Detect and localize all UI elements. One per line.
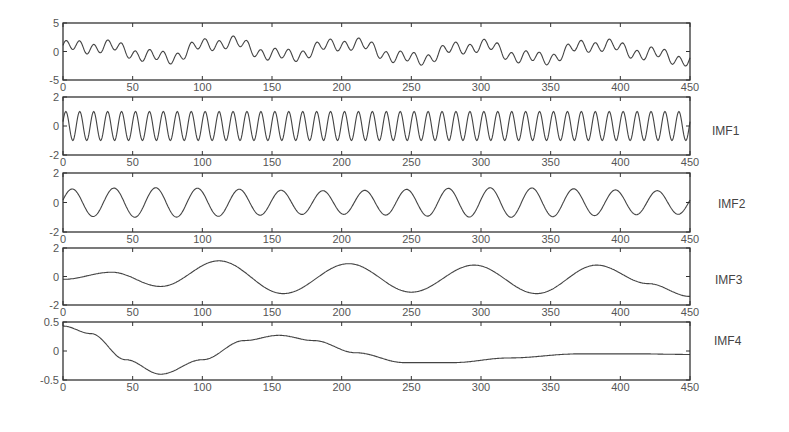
- x-tick-label: 400: [611, 156, 629, 168]
- data-line: [63, 188, 690, 217]
- data-line: [63, 112, 690, 141]
- x-tick-label: 150: [263, 156, 281, 168]
- y-tick-label: -2: [49, 226, 59, 238]
- x-tick-label: 150: [263, 233, 281, 245]
- x-tick-label: 200: [332, 381, 350, 393]
- x-tick-label: 350: [541, 156, 559, 168]
- y-tick-label: 0: [53, 197, 59, 209]
- y-tick-label: -5: [49, 74, 59, 86]
- imf-label-imf1: IMF1: [712, 124, 739, 138]
- x-tick-label: 400: [611, 306, 629, 318]
- y-tick-label: -2: [49, 149, 59, 161]
- x-tick-label: 50: [127, 156, 139, 168]
- x-tick-label: 450: [681, 381, 699, 393]
- data-line: [63, 326, 690, 374]
- x-tick-label: 450: [681, 233, 699, 245]
- data-line: [63, 36, 690, 66]
- x-tick-label: 400: [611, 381, 629, 393]
- axes-box: [63, 97, 690, 155]
- imf-label-imf4: IMF4: [714, 334, 741, 348]
- y-tick-label: -2: [49, 299, 59, 311]
- x-tick-label: 50: [127, 306, 139, 318]
- x-tick-label: 150: [263, 306, 281, 318]
- y-tick-label: 2: [53, 242, 59, 254]
- x-tick-label: 450: [681, 306, 699, 318]
- axes-box: [63, 322, 690, 380]
- x-tick-label: 50: [127, 381, 139, 393]
- x-tick-label: 100: [193, 306, 211, 318]
- x-tick-label: 100: [193, 81, 211, 93]
- y-tick-label: 0: [53, 345, 59, 357]
- subplot-imf4: 0501001502002503003504004500.50-0.5: [40, 316, 699, 393]
- x-tick-label: 250: [402, 81, 420, 93]
- y-tick-label: 5: [53, 17, 59, 29]
- x-tick-label: 0: [60, 306, 66, 318]
- imf-label-imf3: IMF3: [715, 273, 742, 287]
- x-tick-label: 100: [193, 156, 211, 168]
- y-tick-label: -0.5: [40, 374, 59, 386]
- x-tick-label: 350: [541, 81, 559, 93]
- x-tick-label: 300: [472, 381, 490, 393]
- x-tick-label: 300: [472, 306, 490, 318]
- x-tick-label: 250: [402, 381, 420, 393]
- x-tick-label: 0: [60, 233, 66, 245]
- y-tick-label: 0: [53, 46, 59, 58]
- y-tick-label: 0: [53, 271, 59, 283]
- subplot-signal: 05010015020025030035040045050-5: [49, 17, 699, 93]
- emd-figure: 05010015020025030035040045050-5050100150…: [0, 0, 789, 432]
- x-tick-label: 50: [127, 81, 139, 93]
- x-tick-label: 350: [541, 233, 559, 245]
- x-tick-label: 200: [332, 156, 350, 168]
- x-tick-label: 200: [332, 81, 350, 93]
- x-tick-label: 150: [263, 381, 281, 393]
- axes-box: [63, 173, 690, 232]
- x-tick-label: 0: [60, 381, 66, 393]
- x-tick-label: 0: [60, 81, 66, 93]
- x-tick-label: 400: [611, 233, 629, 245]
- x-tick-label: 300: [472, 156, 490, 168]
- y-tick-label: 2: [53, 167, 59, 179]
- data-line: [63, 261, 690, 297]
- x-tick-label: 100: [193, 381, 211, 393]
- subplot-imf2: 05010015020025030035040045020-2: [49, 167, 699, 245]
- x-tick-label: 450: [681, 81, 699, 93]
- y-tick-label: 0.5: [44, 316, 59, 328]
- x-tick-label: 300: [472, 233, 490, 245]
- x-tick-label: 200: [332, 306, 350, 318]
- y-tick-label: 0: [53, 120, 59, 132]
- imf-label-imf2: IMF2: [718, 197, 745, 211]
- x-tick-label: 350: [541, 306, 559, 318]
- x-tick-label: 150: [263, 81, 281, 93]
- x-tick-label: 50: [127, 233, 139, 245]
- subplot-imf3: 05010015020025030035040045020-2: [49, 242, 699, 318]
- x-tick-label: 300: [472, 81, 490, 93]
- x-tick-label: 450: [681, 156, 699, 168]
- axes-box: [63, 248, 690, 305]
- x-tick-label: 0: [60, 156, 66, 168]
- x-tick-label: 250: [402, 306, 420, 318]
- x-tick-label: 100: [193, 233, 211, 245]
- x-tick-label: 200: [332, 233, 350, 245]
- x-tick-label: 400: [611, 81, 629, 93]
- x-tick-label: 350: [541, 381, 559, 393]
- subplot-imf1: 05010015020025030035040045020-2: [49, 91, 699, 168]
- x-tick-label: 250: [402, 233, 420, 245]
- x-tick-label: 250: [402, 156, 420, 168]
- y-tick-label: 2: [53, 91, 59, 103]
